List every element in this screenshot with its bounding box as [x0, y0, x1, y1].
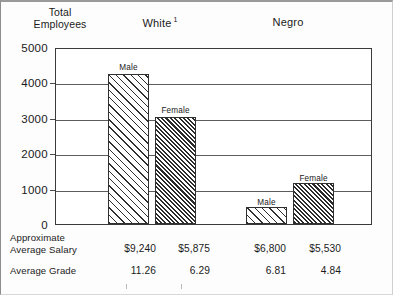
plot-area: Male Female Male Female [55, 48, 372, 225]
bar-label-negro-female: Female [293, 174, 334, 183]
gridline-2000 [56, 155, 371, 156]
footer-tick-left [126, 284, 127, 289]
cell-grade-white-female: 6.29 [158, 265, 210, 276]
bar-label-white-male: Male [108, 63, 149, 72]
cell-grade-negro-female: 4.84 [289, 265, 341, 276]
bar-label-negro-male: Male [246, 198, 287, 207]
cell-salary-white-female: $5,875 [158, 243, 210, 254]
y-tick-label-5000: 5000 [0, 42, 48, 54]
y-tick-label-3000: 3000 [0, 113, 48, 125]
gridline-3000 [56, 120, 371, 121]
table-row-salary-label: Approximate Average Salary [10, 232, 77, 255]
y-axis-title: Total Employees [12, 6, 108, 30]
y-tick-label-0: 0 [0, 219, 48, 231]
y-axis-title-line1: Total [49, 6, 72, 18]
footer-tick-right [181, 284, 182, 289]
y-tick-label-1000: 1000 [0, 184, 48, 196]
cell-salary-white-male: $9,240 [104, 243, 156, 254]
footnote-marker: 1 [174, 16, 178, 23]
y-axis-title-line2: Employees [12, 18, 108, 30]
group-header-white: White1 [112, 16, 208, 29]
chart-sheet: Total Employees White1 Negro 5000 4000 3… [0, 0, 393, 295]
bar-negro-male[interactable] [246, 207, 287, 224]
grade-label: Average Grade [10, 265, 76, 276]
group-header-negro-label: Negro [273, 16, 304, 28]
cell-grade-negro-male: 6.81 [234, 265, 286, 276]
bar-label-white-female: Female [155, 106, 196, 115]
table-row-grade-label: Average Grade [10, 265, 76, 277]
group-header-white-label: White [142, 17, 171, 29]
data-table: Approximate Average Salary $9,240 $5,875… [6, 232, 386, 288]
cell-grade-white-male: 11.26 [104, 265, 156, 276]
salary-label-line2: Average Salary [10, 244, 77, 255]
salary-label-line1: Approximate [10, 232, 65, 243]
y-tick-label-2000: 2000 [0, 148, 48, 160]
cell-salary-negro-female: $5,530 [289, 243, 341, 254]
gridline-4000 [56, 84, 371, 85]
group-header-negro: Negro [240, 16, 336, 28]
bar-negro-female[interactable] [293, 183, 334, 224]
bar-white-male[interactable] [108, 74, 149, 224]
y-tick-label-4000: 4000 [0, 77, 48, 89]
cell-salary-negro-male: $6,800 [234, 243, 286, 254]
bar-white-female[interactable] [155, 117, 196, 224]
